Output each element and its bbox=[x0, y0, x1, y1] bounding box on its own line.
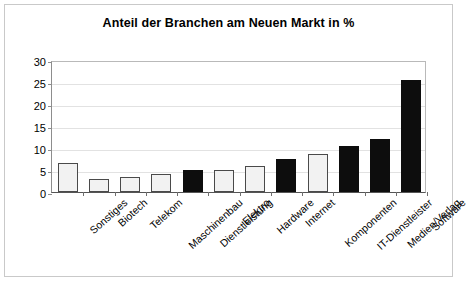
x-axis-tick-mark bbox=[333, 192, 334, 196]
bar bbox=[151, 174, 171, 192]
x-axis-tick-mark bbox=[115, 192, 116, 196]
chart-title: Anteil der Branchen am Neuen Markt in % bbox=[5, 16, 452, 30]
bar bbox=[214, 170, 234, 192]
plot-area: 051015202530 bbox=[51, 61, 426, 193]
x-axis-tick-mark bbox=[240, 192, 241, 196]
bar bbox=[370, 139, 390, 192]
x-axis-category-label: Telekom bbox=[148, 197, 184, 231]
x-axis-tick-mark bbox=[271, 192, 272, 196]
x-axis-tick-mark bbox=[302, 192, 303, 196]
bar bbox=[58, 163, 78, 192]
x-axis-category-label-text: Telekom bbox=[148, 197, 184, 231]
y-axis-tick-label: 10 bbox=[34, 145, 46, 156]
bar bbox=[89, 179, 109, 192]
bar bbox=[183, 170, 203, 192]
y-axis-tick-label: 15 bbox=[34, 123, 46, 134]
y-axis-tick-label: 20 bbox=[34, 101, 46, 112]
x-axis-tick-mark bbox=[365, 192, 366, 196]
chart-frame: Anteil der Branchen am Neuen Markt in % … bbox=[4, 4, 453, 277]
bar bbox=[308, 154, 328, 192]
x-axis-tick-mark bbox=[83, 192, 84, 196]
x-axis-tick-mark bbox=[396, 192, 397, 196]
x-axis-category-label: Elektro bbox=[240, 197, 272, 227]
bar-series bbox=[52, 62, 425, 192]
bar bbox=[245, 166, 265, 192]
x-axis-tick-mark bbox=[427, 192, 428, 196]
y-axis-tick-label: 30 bbox=[34, 57, 46, 68]
bar bbox=[276, 159, 296, 192]
y-axis-tick-mark bbox=[48, 194, 52, 195]
x-axis-tick-mark bbox=[208, 192, 209, 196]
bar bbox=[339, 146, 359, 192]
bar bbox=[401, 80, 421, 192]
y-axis-tick-label: 25 bbox=[34, 79, 46, 90]
y-axis-tick-label: 5 bbox=[40, 167, 46, 178]
bar bbox=[120, 177, 140, 192]
x-axis-category-labels: SonstigesBiotechTelekomMaschinenbauDiens… bbox=[51, 197, 426, 277]
x-axis-tick-mark bbox=[146, 192, 147, 196]
x-axis-tick-mark bbox=[177, 192, 178, 196]
y-axis-tick-label: 0 bbox=[40, 189, 46, 200]
x-axis-category-label-text: Elektro bbox=[240, 197, 272, 227]
